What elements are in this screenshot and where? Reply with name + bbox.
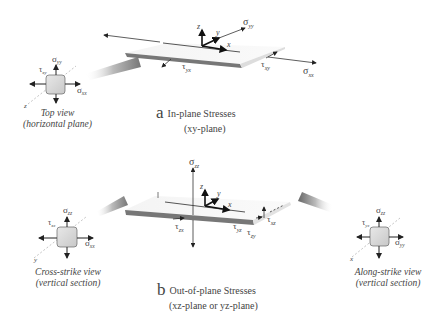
top-view-caption-line2: (horizontal plane) — [10, 119, 105, 130]
y-axis-label: y — [215, 28, 220, 37]
z-axis-label: z — [196, 22, 201, 31]
along-strike-view-beam — [298, 192, 333, 212]
panel-a-subtitle: (xy-plane) — [156, 123, 236, 134]
panel-b-title: Out-of-plane Stresses — [170, 285, 256, 296]
panel-b-letter: b — [157, 280, 166, 299]
cross-strike-sigma-zz: σzz — [63, 205, 73, 216]
panel-a-letter: a — [156, 103, 164, 122]
along-strike-sigma-yy: σyy — [395, 237, 405, 248]
panel-b-subtitle: (xz-plane or yz-plane) — [157, 300, 258, 311]
cross-strike-tau: τxz — [48, 218, 55, 228]
b-x-axis-label: x — [227, 200, 232, 209]
panel-a-caption: aIn-plane Stresses (xy-plane) — [156, 103, 236, 134]
view-beam — [85, 57, 141, 80]
sigma-yy-label: σyy — [243, 16, 254, 29]
stress-element-square — [57, 227, 77, 247]
tau-zx-label: τzx — [175, 221, 184, 233]
tau-zy-label: τzy — [247, 227, 256, 239]
tau-xz-label: τxz — [267, 214, 276, 226]
sigma-yy-arrow — [219, 28, 245, 38]
stress-element-square — [370, 227, 389, 246]
top-view-sigma-yy: σyy — [52, 54, 62, 65]
sigma-xx-arrow — [268, 57, 316, 63]
b-y-axis-label: y — [216, 189, 221, 198]
along-strike-caption-line2: (vertical section) — [343, 278, 432, 289]
cross-strike-view-beam — [96, 196, 128, 216]
top-view-inset — [28, 65, 80, 104]
along-strike-sigma-zz: σzz — [376, 205, 386, 216]
x-axis-label: x — [226, 40, 231, 49]
b-z-axis-label: z — [199, 182, 204, 191]
top-view-sigma-xx: σxx — [77, 85, 87, 96]
top-view-caption: Top view (horizontal plane) — [10, 108, 105, 130]
top-view-caption-line1: Top view — [10, 108, 105, 119]
stress-element-square — [46, 75, 65, 94]
tau-xy-label: τxy — [261, 59, 270, 71]
cross-strike-caption-line1: Cross-strike view — [18, 267, 118, 278]
along-strike-caption-line1: Along-strike view — [343, 267, 432, 278]
panel-b-caption: bOut-of-plane Stresses (xz-plane or yz-p… — [157, 280, 258, 311]
cross-strike-sigma-xx: σxx — [85, 238, 95, 249]
along-strike-tau: τyz — [362, 218, 369, 228]
panel-a-title: In-plane Stresses — [168, 108, 236, 119]
sigma-xx-label: σxx — [303, 65, 314, 78]
cross-strike-axis-label: y — [33, 256, 38, 264]
cross-strike-caption: Cross-strike view (vertical section) — [18, 267, 118, 289]
sigma-xx-left-arrow — [104, 35, 160, 42]
cross-strike-caption-line2: (vertical section) — [18, 278, 118, 289]
panel-b-plate — [96, 192, 333, 225]
along-strike-caption: Along-strike view (vertical section) — [343, 267, 432, 289]
top-view-tau: τxy — [39, 65, 47, 75]
sigma-zz-label: σzz — [189, 156, 200, 169]
